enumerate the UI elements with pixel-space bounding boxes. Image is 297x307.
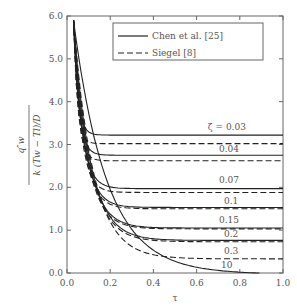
curve-label: 10 <box>221 260 233 270</box>
y-tick-label: 4.0 <box>49 97 64 107</box>
legend: Chen et al. [25]Siegel [8] <box>113 23 263 60</box>
chart: 0.00.20.40.60.81.00.01.02.03.04.05.06.0 … <box>0 0 297 307</box>
x-tick-label: 0.4 <box>146 278 161 288</box>
curve-label: 0.04 <box>219 144 239 154</box>
y-tick-label: 3.0 <box>49 140 64 150</box>
y-tick-label: 0.0 <box>49 268 64 278</box>
x-tick-label: 0.8 <box>233 278 248 288</box>
x-tick-label: 0.6 <box>189 278 204 288</box>
curve-label: ζ = 0.03 <box>208 122 246 132</box>
y-tick-label: 2.0 <box>49 182 64 192</box>
curve-label: 0.1 <box>224 196 238 206</box>
y-tick-label: 1.0 <box>49 225 64 235</box>
legend-label: Chen et al. [25] <box>152 31 223 41</box>
curve-label: 0.3 <box>224 246 239 256</box>
svg-text:q″w: q″w <box>16 136 26 153</box>
curve-label: 0.15 <box>219 215 239 225</box>
y-tick-label: 6.0 <box>49 11 64 21</box>
y-axis-label: q″wk (Tw − Tl)/D <box>16 105 42 185</box>
curve-label: 0.07 <box>219 175 239 185</box>
x-tick-label: 1.0 <box>276 278 291 288</box>
x-axis-label: τ <box>173 293 178 303</box>
x-tick-label: 0.0 <box>60 278 75 288</box>
svg-text:k (Tw − Tl)/D: k (Tw − Tl)/D <box>32 114 42 175</box>
curve-label: 0.2 <box>224 229 238 239</box>
y-tick-label: 5.0 <box>49 54 64 64</box>
legend-label: Siegel [8] <box>152 48 196 58</box>
x-tick-label: 0.2 <box>103 278 117 288</box>
